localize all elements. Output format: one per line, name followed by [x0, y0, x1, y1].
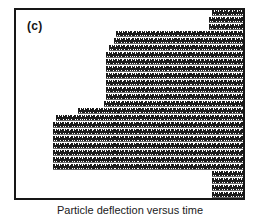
zigzag-row — [209, 16, 243, 23]
zigzag-mark-fill — [106, 51, 243, 58]
zigzag-mark-fill — [212, 191, 243, 198]
zigzag-row — [53, 135, 243, 142]
zigzag-row — [53, 128, 243, 135]
zigzag-mark-fill — [104, 100, 243, 107]
zigzag-mark-fill — [56, 114, 243, 121]
zigzag-mark-fill — [212, 177, 243, 184]
zigzag-row — [212, 9, 243, 16]
zigzag-mark-fill — [106, 79, 243, 86]
zigzag-row — [212, 170, 243, 177]
zigzag-mark-fill — [106, 93, 243, 100]
zigzag-row — [53, 163, 243, 170]
zigzag-mark-fill — [212, 170, 243, 177]
zigzag-row — [212, 191, 243, 198]
zigzag-row — [106, 79, 243, 86]
zigzag-mark-fill — [78, 107, 243, 114]
zigzag-row — [106, 51, 243, 58]
zigzag-mark-fill — [209, 16, 243, 23]
zigzag-mark-fill — [106, 65, 243, 72]
zigzag-mark-fill — [116, 30, 243, 37]
zigzag-row — [104, 100, 243, 107]
zigzag-mark-fill — [212, 184, 243, 191]
zigzag-mark-fill — [53, 156, 243, 163]
zigzag-mark-fill — [212, 9, 243, 16]
zigzag-row — [53, 156, 243, 163]
zigzag-row — [106, 58, 243, 65]
zigzag-row — [114, 37, 243, 44]
zigzag-row — [209, 23, 243, 30]
zigzag-row — [53, 149, 243, 156]
zigzag-mark-fill — [106, 58, 243, 65]
figure-panel: (c) Particle deflection versus time — [0, 0, 260, 217]
zigzag-mark-fill — [109, 44, 243, 51]
zigzag-row — [116, 30, 243, 37]
zigzag-row — [56, 114, 243, 121]
zigzag-row — [53, 142, 243, 149]
zigzag-pattern-area — [16, 10, 243, 198]
zigzag-mark-fill — [53, 149, 243, 156]
zigzag-mark-fill — [53, 121, 243, 128]
zigzag-mark-fill — [106, 72, 243, 79]
zigzag-mark-fill — [53, 142, 243, 149]
zigzag-mark-fill — [209, 23, 243, 30]
zigzag-row — [109, 44, 243, 51]
figure-caption: Particle deflection versus time — [0, 203, 260, 217]
zigzag-mark-fill — [53, 135, 243, 142]
zigzag-mark-fill — [106, 86, 243, 93]
zigzag-row — [106, 65, 243, 72]
zigzag-mark-fill — [114, 37, 243, 44]
zigzag-mark-fill — [53, 163, 243, 170]
zigzag-mark-fill — [53, 128, 243, 135]
zigzag-row — [106, 72, 243, 79]
zigzag-row — [212, 177, 243, 184]
zigzag-row — [106, 93, 243, 100]
zigzag-row — [53, 121, 243, 128]
plot-frame: (c) — [14, 8, 245, 200]
zigzag-row — [78, 107, 243, 114]
zigzag-row — [212, 184, 243, 191]
zigzag-row — [106, 86, 243, 93]
